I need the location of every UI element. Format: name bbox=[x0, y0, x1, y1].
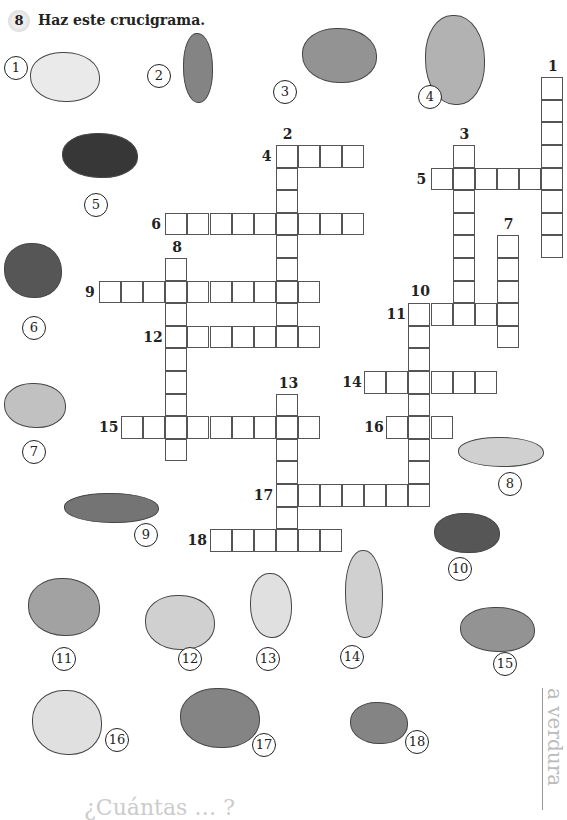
crossword-cell[interactable] bbox=[453, 145, 475, 168]
crossword-cell[interactable] bbox=[254, 326, 276, 349]
crossword-cell[interactable] bbox=[386, 371, 408, 394]
crossword-cell[interactable] bbox=[210, 326, 232, 349]
crossword-cell[interactable] bbox=[541, 235, 563, 258]
crossword-cell[interactable] bbox=[386, 416, 408, 439]
crossword-cell[interactable] bbox=[386, 484, 408, 507]
crossword-cell[interactable] bbox=[165, 371, 187, 394]
crossword-cell[interactable] bbox=[497, 281, 519, 304]
crossword-cell[interactable] bbox=[276, 281, 298, 304]
crossword-cell[interactable] bbox=[232, 213, 254, 236]
crossword-cell[interactable] bbox=[497, 235, 519, 258]
crossword-cell[interactable] bbox=[408, 416, 430, 439]
crossword-cell[interactable] bbox=[276, 416, 298, 439]
crossword-cell[interactable] bbox=[497, 258, 519, 281]
crossword-cell[interactable] bbox=[408, 394, 430, 417]
crossword-cell[interactable] bbox=[232, 281, 254, 304]
crossword-cell[interactable] bbox=[475, 168, 497, 191]
crossword-cell[interactable] bbox=[298, 529, 320, 552]
crossword-cell[interactable] bbox=[143, 416, 165, 439]
crossword-cell[interactable] bbox=[497, 303, 519, 326]
crossword-cell[interactable] bbox=[541, 145, 563, 168]
crossword-cell[interactable] bbox=[298, 416, 320, 439]
crossword-cell[interactable] bbox=[276, 529, 298, 552]
crossword-cell[interactable] bbox=[254, 213, 276, 236]
crossword-cell[interactable] bbox=[298, 484, 320, 507]
crossword-cell[interactable] bbox=[497, 168, 519, 191]
crossword-cell[interactable] bbox=[210, 213, 232, 236]
crossword-cell[interactable] bbox=[431, 303, 453, 326]
crossword-cell[interactable] bbox=[364, 484, 386, 507]
crossword-cell[interactable] bbox=[408, 371, 430, 394]
crossword-cell[interactable] bbox=[453, 303, 475, 326]
crossword-cell[interactable] bbox=[121, 416, 143, 439]
crossword-cell[interactable] bbox=[541, 190, 563, 213]
crossword-cell[interactable] bbox=[187, 416, 209, 439]
crossword-cell[interactable] bbox=[99, 281, 121, 304]
crossword-cell[interactable] bbox=[475, 371, 497, 394]
crossword-cell[interactable] bbox=[210, 281, 232, 304]
crossword-cell[interactable] bbox=[165, 439, 187, 462]
crossword-cell[interactable] bbox=[342, 213, 364, 236]
crossword-cell[interactable] bbox=[165, 394, 187, 417]
crossword-cell[interactable] bbox=[121, 281, 143, 304]
crossword-cell[interactable] bbox=[165, 281, 187, 304]
crossword-cell[interactable] bbox=[276, 235, 298, 258]
crossword-cell[interactable] bbox=[320, 145, 342, 168]
crossword-cell[interactable] bbox=[254, 416, 276, 439]
crossword-cell[interactable] bbox=[276, 258, 298, 281]
crossword-cell[interactable] bbox=[408, 484, 430, 507]
crossword-cell[interactable] bbox=[298, 145, 320, 168]
crossword-cell[interactable] bbox=[453, 168, 475, 191]
crossword-cell[interactable] bbox=[165, 416, 187, 439]
crossword-cell[interactable] bbox=[276, 145, 298, 168]
crossword-cell[interactable] bbox=[453, 281, 475, 304]
crossword-cell[interactable] bbox=[276, 326, 298, 349]
crossword-cell[interactable] bbox=[276, 507, 298, 530]
crossword-cell[interactable] bbox=[408, 303, 430, 326]
crossword-cell[interactable] bbox=[364, 371, 386, 394]
crossword-cell[interactable] bbox=[276, 461, 298, 484]
crossword-cell[interactable] bbox=[143, 281, 165, 304]
crossword-cell[interactable] bbox=[210, 416, 232, 439]
crossword-cell[interactable] bbox=[276, 168, 298, 191]
crossword-cell[interactable] bbox=[298, 281, 320, 304]
crossword-cell[interactable] bbox=[453, 258, 475, 281]
crossword-cell[interactable] bbox=[497, 326, 519, 349]
crossword-cell[interactable] bbox=[187, 326, 209, 349]
crossword-cell[interactable] bbox=[232, 416, 254, 439]
crossword-cell[interactable] bbox=[475, 303, 497, 326]
crossword-cell[interactable] bbox=[276, 303, 298, 326]
crossword-cell[interactable] bbox=[431, 371, 453, 394]
crossword-cell[interactable] bbox=[342, 484, 364, 507]
crossword-cell[interactable] bbox=[254, 281, 276, 304]
crossword-cell[interactable] bbox=[453, 235, 475, 258]
crossword-cell[interactable] bbox=[210, 529, 232, 552]
crossword-cell[interactable] bbox=[276, 213, 298, 236]
crossword-cell[interactable] bbox=[232, 529, 254, 552]
crossword-cell[interactable] bbox=[519, 168, 541, 191]
crossword-cell[interactable] bbox=[165, 348, 187, 371]
crossword-cell[interactable] bbox=[298, 213, 320, 236]
crossword-cell[interactable] bbox=[187, 213, 209, 236]
crossword-cell[interactable] bbox=[298, 326, 320, 349]
crossword-cell[interactable] bbox=[541, 213, 563, 236]
crossword-cell[interactable] bbox=[453, 213, 475, 236]
crossword-cell[interactable] bbox=[276, 394, 298, 417]
crossword-cell[interactable] bbox=[541, 100, 563, 123]
crossword-cell[interactable] bbox=[453, 371, 475, 394]
crossword-cell[interactable] bbox=[408, 326, 430, 349]
crossword-cell[interactable] bbox=[408, 439, 430, 462]
crossword-cell[interactable] bbox=[165, 258, 187, 281]
crossword-cell[interactable] bbox=[431, 168, 453, 191]
crossword-cell[interactable] bbox=[320, 213, 342, 236]
crossword-cell[interactable] bbox=[276, 190, 298, 213]
crossword-cell[interactable] bbox=[453, 190, 475, 213]
crossword-cell[interactable] bbox=[431, 416, 453, 439]
crossword-cell[interactable] bbox=[165, 213, 187, 236]
crossword-cell[interactable] bbox=[165, 326, 187, 349]
crossword-cell[interactable] bbox=[408, 461, 430, 484]
crossword-cell[interactable] bbox=[541, 168, 563, 191]
crossword-cell[interactable] bbox=[276, 484, 298, 507]
crossword-cell[interactable] bbox=[320, 484, 342, 507]
crossword-cell[interactable] bbox=[541, 77, 563, 100]
